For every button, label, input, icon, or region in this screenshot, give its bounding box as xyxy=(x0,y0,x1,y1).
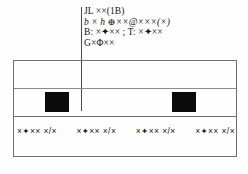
callout-line-4: G×Φ×× xyxy=(84,38,196,49)
frame-row-upper xyxy=(14,61,236,89)
label-cell-1: ×✦×× ×/× xyxy=(17,126,57,136)
label-cell-2: ×✦×× ×/× xyxy=(76,126,116,136)
marker-right-block xyxy=(172,92,196,112)
callout-line-3: B: ×✦×× ; T: ×✦×× xyxy=(84,27,196,38)
callout-annotation-block: JL ××(1B) b × h ⊕××@×××(×) B: ×✦×× ; T: … xyxy=(84,6,196,48)
label-strip: ×✦×× ×/× ×✦×× ×/× ×✦×× ×/× ×✦×× ×/× xyxy=(14,124,238,138)
callout-line-1: JL ××(1B) xyxy=(84,6,196,17)
document-page: JL ××(1B) b × h ⊕××@×××(×) B: ×✦×× ; T: … xyxy=(0,0,248,174)
label-cell-3: ×✦×× ×/× xyxy=(136,126,176,136)
callout-line-2: b × h ⊕××@×××(×) xyxy=(84,17,196,28)
label-cell-4: ×✦×× ×/× xyxy=(195,126,235,136)
marker-left-block xyxy=(45,92,69,112)
